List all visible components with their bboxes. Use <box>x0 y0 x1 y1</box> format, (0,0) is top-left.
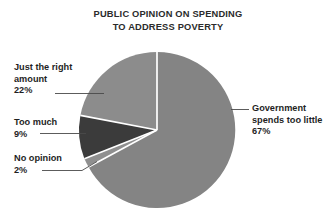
slice-label-no-opinion-line-1: No opinion <box>14 153 62 165</box>
slice-label-government-spends-too-little-line-1: Government <box>252 103 322 115</box>
slice-label-government-spends-too-little-line-2: spends too little <box>252 115 322 127</box>
slice-value-just-the-right-amount: 22% <box>14 85 72 97</box>
slice-label-just-the-right-amount-line-1: Just the right <box>14 62 72 74</box>
slice-label-just-the-right-amount-line-2: amount <box>14 74 72 86</box>
slice-label-too-much: Too much 9% <box>14 117 57 140</box>
slice-value-government-spends-too-little: 67% <box>252 126 322 138</box>
slice-value-too-much: 9% <box>14 129 57 141</box>
slice-label-no-opinion: No opinion 2% <box>14 153 62 176</box>
slice-label-too-much-line-1: Too much <box>14 117 57 129</box>
slice-value-no-opinion: 2% <box>14 165 62 177</box>
slice-label-government-spends-too-little: Government spends too little 67% <box>252 103 322 138</box>
slice-label-just-the-right-amount: Just the right amount 22% <box>14 62 72 97</box>
pie-chart-figure: PUBLIC OPINION ON SPENDING TO ADDRESS PO… <box>0 0 336 216</box>
